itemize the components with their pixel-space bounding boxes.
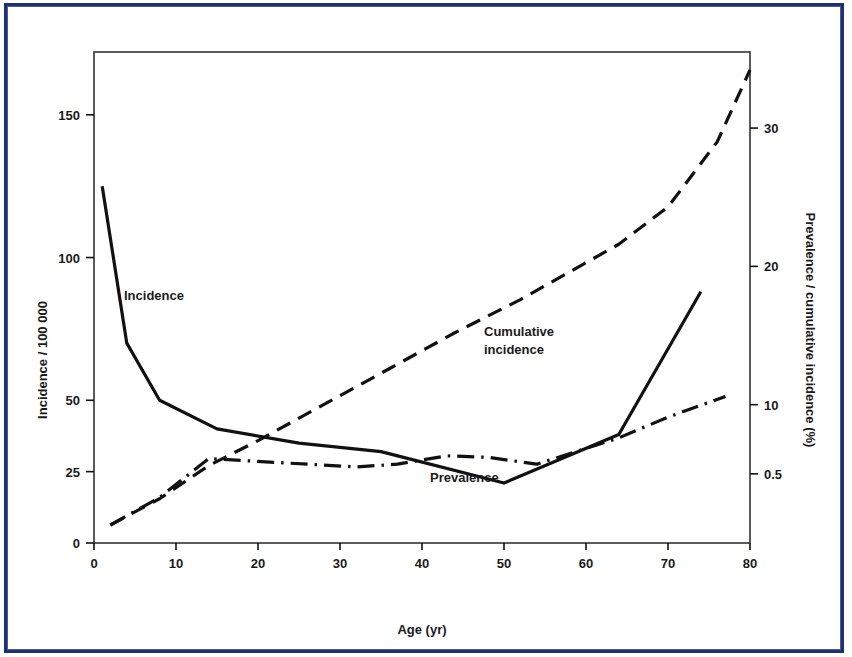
y-tick-label: 150 [58,108,80,123]
figure-root: 01020304050607080 02550100150 0.5102030 … [0,0,852,657]
x-tick-label: 80 [743,556,757,571]
y2-tick-label: 10 [764,398,778,413]
y-tick-label: 50 [66,393,80,408]
series-label-prevalence: Prevalence [430,470,499,485]
y-tick-label: 0 [73,536,80,551]
x-tick-label: 50 [497,556,511,571]
x-tick-label: 60 [579,556,593,571]
x-tick-label: 70 [661,556,675,571]
x-tick-label: 40 [415,556,429,571]
y2-tick-label: 30 [764,121,778,136]
series-label-incidence: Incidence [124,288,184,303]
y-axis-left-title: Incidence / 100 000 [35,301,50,419]
x-tick-label: 20 [251,556,265,571]
y2-tick-label: 20 [764,259,778,274]
x-tick-label: 30 [333,556,347,571]
y-tick-label: 100 [58,251,80,266]
plot-area-border [94,52,750,543]
series-line-cumulative-incidence [110,70,750,525]
series-label-cumulative-incidence-line2: incidence [484,342,544,357]
data-series-group [102,70,750,525]
y-axis-left-ticks: 02550100150 [58,108,94,551]
incidence-prevalence-chart: 01020304050607080 02550100150 0.5102030 … [0,0,852,657]
x-tick-label: 10 [169,556,183,571]
y-axis-right-ticks: 0.5102030 [750,121,782,482]
y-tick-label: 25 [66,465,80,480]
x-axis-ticks: 01020304050607080 [90,543,757,571]
x-axis-title: Age (yr) [397,622,446,637]
x-tick-label: 0 [90,556,97,571]
y-axis-right-title: Prevalence / cumulative incidence (%) [803,213,818,448]
plot-frame [94,52,750,543]
series-line-incidence [102,186,701,483]
y2-tick-label: 0.5 [764,467,782,482]
series-label-cumulative-incidence-line1: Cumulative [484,324,554,339]
